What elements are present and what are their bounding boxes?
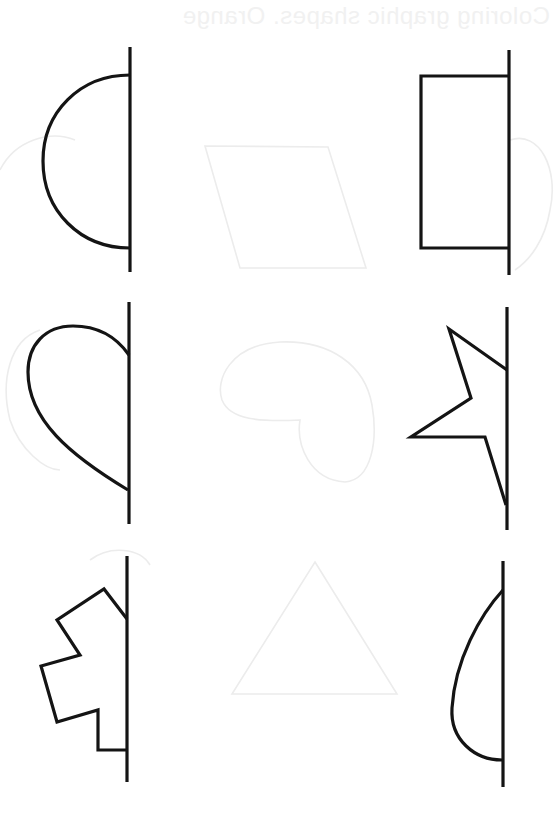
ghost-trapezoid [205,146,366,268]
ghost-cloud-right [510,138,552,270]
ghost-shapes [0,136,552,694]
ghost-gear-outline [90,550,150,565]
half-circle-shape [43,47,130,272]
half-rectangle-shape [421,50,509,275]
half-heart-shape [28,302,129,524]
ghost-round-blob [220,342,374,482]
half-gear-shape [41,556,127,782]
half-teardrop-shape [452,561,503,787]
ghost-cloud-top-left [0,136,75,170]
symmetry-worksheet [0,0,559,822]
ghost-triangle [232,562,397,694]
half-star-shape [411,307,507,530]
